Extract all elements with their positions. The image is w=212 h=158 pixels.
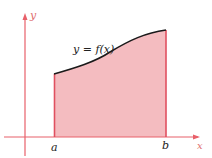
- x-axis-arrow-icon: [193, 135, 200, 140]
- y-axis-arrow-icon: [23, 13, 28, 20]
- x-axis-label: x: [197, 141, 203, 151]
- y-axis-label: y: [30, 10, 36, 21]
- function-label: y = f(x): [73, 44, 114, 55]
- a-label: a: [51, 142, 58, 153]
- area-under-curve-diagram: y y = f(x) a b x: [0, 0, 212, 158]
- diagram-graphic: [0, 0, 212, 158]
- b-label: b: [162, 140, 169, 151]
